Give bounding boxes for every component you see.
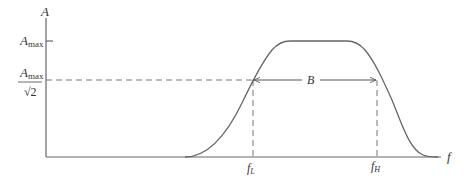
bandwidth-diagram: A f Amax Amax √2 B fL fH (0, 0, 468, 180)
y-axis-label: A (40, 4, 49, 19)
bandwidth-label: B (307, 73, 315, 87)
amax-label: Amax (19, 33, 44, 49)
half-power-numerator: Amax (19, 65, 44, 81)
x-axis-label: f (447, 149, 453, 164)
response-curve (185, 41, 438, 157)
half-power-denominator: √2 (24, 85, 37, 99)
f-high-label: fH (371, 159, 381, 174)
f-low-label: fL (247, 161, 255, 176)
